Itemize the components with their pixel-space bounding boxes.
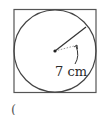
stray-mark: ( (11, 102, 16, 115)
radius-label: 7 cm (55, 64, 87, 79)
diagram: 7 cm ( (0, 0, 108, 115)
arrow-head (74, 45, 78, 49)
center-point (53, 49, 56, 52)
